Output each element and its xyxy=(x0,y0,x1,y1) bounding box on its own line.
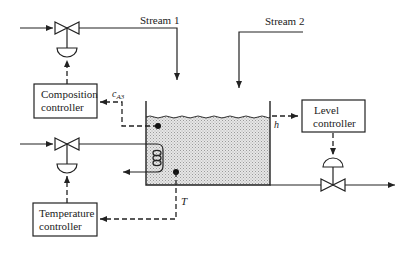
level-measurement-label: h xyxy=(274,119,279,130)
composition-sensor xyxy=(155,123,161,129)
level-loop: h Level controller xyxy=(270,100,395,191)
temperature-loop: T Temperature controller xyxy=(20,138,188,236)
tank-liquid xyxy=(146,117,270,185)
composition-controller-line1: Composition xyxy=(41,88,98,100)
stream-1-label: Stream 1 xyxy=(140,14,179,26)
level-controller-line2: controller xyxy=(313,117,356,129)
actuator-icon xyxy=(323,158,343,167)
stream-2: Stream 2 xyxy=(239,15,304,88)
stream-2-label: Stream 2 xyxy=(265,15,304,27)
temperature-controller-line1: Temperature xyxy=(39,207,95,219)
composition-loop: Composition controller cA3 xyxy=(34,60,161,129)
actuator-icon xyxy=(57,164,77,173)
actuator-icon xyxy=(57,48,77,57)
temperature-controller-line2: controller xyxy=(39,220,82,232)
process-diagram: Stream 1 Stream 2 Composition controller… xyxy=(0,0,415,255)
stream-1: Stream 1 xyxy=(20,14,179,80)
composition-controller-line2: controller xyxy=(41,101,84,113)
temperature-measurement-label: T xyxy=(181,195,188,207)
level-controller-line1: Level xyxy=(314,104,339,116)
tank xyxy=(146,101,270,185)
composition-measurement-label: cA3 xyxy=(112,88,125,101)
